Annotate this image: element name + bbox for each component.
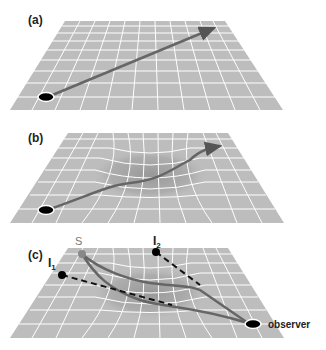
panel-b-label: (b) — [28, 131, 43, 145]
panel-a-label: (a) — [28, 13, 43, 27]
panel-b: (b) — [10, 131, 284, 223]
source-dot — [38, 206, 54, 215]
observer-label: observer — [268, 319, 310, 330]
image1-label: I1 — [48, 256, 56, 272]
image1-dot — [58, 271, 66, 279]
source-s-dot — [78, 250, 86, 258]
lensing-diagram: (a) (b) — [0, 0, 326, 350]
source-dot — [38, 93, 54, 102]
panel-c-label: (c) — [28, 248, 43, 262]
panel-c: (c) S I1 I2 observer — [10, 234, 310, 338]
image2-label: I2 — [153, 234, 161, 250]
observer-dot — [245, 320, 261, 329]
panel-a: (a) — [10, 13, 283, 110]
source-label: S — [75, 235, 82, 247]
